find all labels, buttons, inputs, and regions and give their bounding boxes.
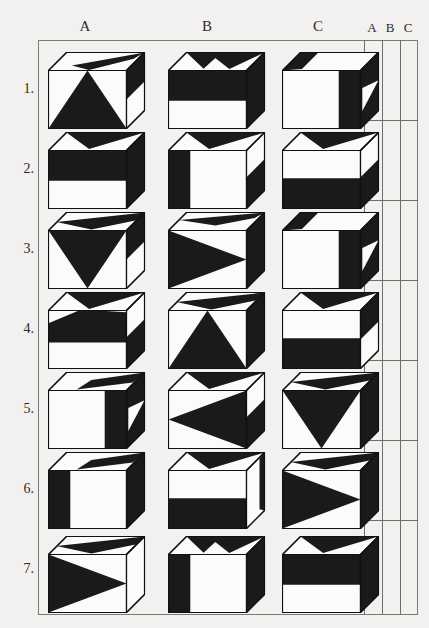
cube-6C[interactable] (282, 452, 380, 530)
row-number-7: 7. (12, 561, 34, 577)
cube-6B[interactable] (168, 452, 266, 530)
cube-4B[interactable] (168, 292, 266, 370)
column-header-a: A (73, 18, 97, 35)
cube-1C[interactable] (282, 52, 380, 130)
cube-7C[interactable] (282, 536, 380, 614)
answer-header-c: C (399, 20, 417, 36)
cube-3B[interactable] (168, 212, 266, 290)
cube-4C[interactable] (282, 292, 380, 370)
column-header-c: C (306, 18, 330, 35)
row-number-2: 2. (12, 161, 34, 177)
row-number-1: 1. (12, 81, 34, 97)
cube-5B[interactable] (168, 372, 266, 450)
cube-7B[interactable] (168, 536, 266, 614)
cube-1B[interactable] (168, 52, 266, 130)
test-sheet-page: A B C A B C 1. 2. 3. 4. 5. 6. 7. (0, 0, 429, 628)
answer-header-a: A (363, 20, 381, 36)
answer-grid-vline-2 (400, 40, 401, 615)
column-header-b: B (195, 18, 219, 35)
row-number-6: 6. (12, 481, 34, 497)
row-number-3: 3. (12, 241, 34, 257)
cube-2C[interactable] (282, 132, 380, 210)
cube-4A[interactable] (48, 292, 146, 370)
cube-3A[interactable] (48, 212, 146, 290)
cube-1A[interactable] (48, 52, 146, 130)
cube-2B[interactable] (168, 132, 266, 210)
row-number-4: 4. (12, 321, 34, 337)
cube-2A[interactable] (48, 132, 146, 210)
cube-5A[interactable] (48, 372, 146, 450)
cube-5C[interactable] (282, 372, 380, 450)
answer-grid-vline-1 (382, 40, 383, 615)
answer-header-b: B (381, 20, 399, 36)
cube-7A[interactable] (48, 536, 146, 614)
row-number-5: 5. (12, 401, 34, 417)
cube-6A[interactable] (48, 452, 146, 530)
cube-3C[interactable] (282, 212, 380, 290)
